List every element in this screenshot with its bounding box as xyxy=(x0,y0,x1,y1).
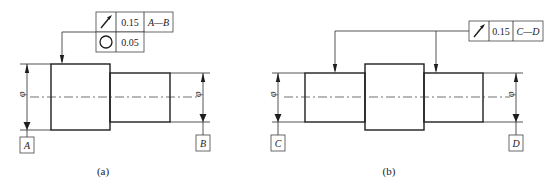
datum-reference: C—D xyxy=(517,26,541,37)
datum-triangle-icon xyxy=(24,122,31,130)
arrow-down-icon xyxy=(434,64,438,73)
figure-b: φ φ C D 0.15 C—D (b) xyxy=(267,21,543,178)
shaft-right-step xyxy=(424,73,483,122)
shaft-left-step xyxy=(305,73,365,122)
datum-reference: A—B xyxy=(147,17,169,28)
datum-triangle-icon xyxy=(513,114,520,122)
diameter-symbol: φ xyxy=(16,91,27,97)
caption-a: (a) xyxy=(97,165,110,178)
arrow-down-icon xyxy=(60,55,64,64)
arrow-up-icon xyxy=(201,73,205,82)
tolerance-value: 0.15 xyxy=(492,26,510,37)
tolerance-value: 0.15 xyxy=(121,17,139,28)
diameter-symbol: φ xyxy=(505,91,516,97)
datum-label-d: D xyxy=(511,138,520,149)
diameter-symbol: φ xyxy=(267,91,278,97)
arrow-up-icon xyxy=(25,64,29,73)
drawing-canvas: φ φ A B 0.15 A—B xyxy=(0,0,554,190)
datum-label-c: C xyxy=(275,138,282,149)
diameter-symbol: φ xyxy=(192,91,203,97)
caption-b: (b) xyxy=(383,165,396,178)
shaft-small-step xyxy=(110,73,170,122)
leader-line xyxy=(62,32,96,62)
datum-label-a: A xyxy=(23,140,31,151)
datum-triangle-icon xyxy=(275,114,282,122)
arrow-up-icon xyxy=(514,73,518,82)
figure-a: φ φ A B 0.15 A—B xyxy=(16,12,210,178)
arrow-down-icon xyxy=(333,64,337,73)
arrow-up-icon xyxy=(276,73,280,82)
datum-label-b: B xyxy=(200,138,206,149)
feature-control-frame-b: 0.15 C—D xyxy=(469,21,543,41)
feature-control-frame-a: 0.15 A—B 0.05 xyxy=(96,12,173,52)
leader-line xyxy=(335,31,469,71)
tolerance-value: 0.05 xyxy=(121,37,139,48)
datum-triangle-icon xyxy=(200,114,207,122)
